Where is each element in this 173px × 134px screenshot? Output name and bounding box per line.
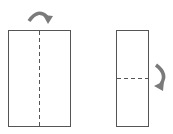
curved-arrow-icon [154,65,164,91]
step-1-vertical-fold [9,13,71,126]
curved-arrow-icon [29,13,53,24]
step-2-horizontal-fold [117,31,165,127]
paper-sheet-full [9,31,71,127]
folding-diagram [0,0,173,134]
